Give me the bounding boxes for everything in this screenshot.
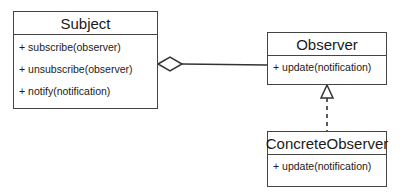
class-subject-name: Subject [14, 12, 157, 35]
aggregation-line [182, 64, 267, 65]
class-observer[interactable]: Observer + update(notification) [267, 32, 387, 85]
class-concrete-observer-name: ConcreteObserver [268, 132, 386, 155]
operation-subscribe: + subscribe(observer) [19, 41, 157, 63]
class-concrete-observer[interactable]: ConcreteObserver + update(notification) [267, 131, 387, 187]
class-concrete-observer-operations: + update(notification) [268, 155, 386, 172]
realization-triangle-icon [321, 85, 333, 98]
operation-update: + update(notification) [273, 160, 386, 172]
operation-unsubscribe: + unsubscribe(observer) [19, 63, 157, 85]
class-subject-operations: + subscribe(observer) + unsubscribe(obse… [14, 35, 157, 97]
class-subject[interactable]: Subject + subscribe(observer) + unsubscr… [13, 11, 158, 109]
class-observer-operations: + update(notification) [268, 56, 386, 73]
class-observer-name: Observer [268, 33, 386, 56]
operation-update: + update(notification) [273, 61, 386, 73]
aggregation-diamond-icon [158, 57, 182, 71]
operation-notify: + notify(notification) [19, 85, 157, 97]
